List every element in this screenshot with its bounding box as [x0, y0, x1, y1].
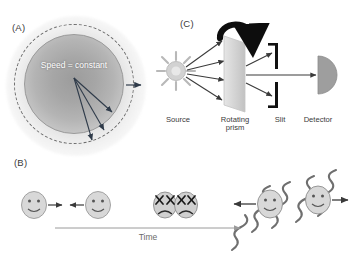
radial-speed-arrows — [74, 78, 112, 140]
time-axis-label: Time — [88, 232, 208, 242]
face-separate-right — [306, 186, 331, 214]
face-separate-left — [258, 190, 283, 218]
panel-b-diagram — [0, 150, 351, 263]
source-label: Source — [154, 116, 202, 124]
face-approach-right — [86, 192, 111, 219]
rotating-prism-label: Rotating prism — [210, 116, 260, 132]
detector-icon — [318, 56, 337, 94]
panel-a: (A) Speed = constant — [0, 8, 175, 158]
slit-label: Slit — [266, 116, 294, 124]
source-icon — [157, 52, 195, 90]
collision-faces — [154, 192, 198, 218]
figure-canvas: (A) Speed = constant (C) — [0, 0, 351, 263]
panel-c: (C) — [150, 8, 351, 140]
panel-a-vectors — [0, 8, 175, 158]
face-approach-left — [22, 192, 47, 219]
detector-label: Detector — [292, 116, 344, 124]
panel-b: (B) — [0, 150, 351, 263]
rotating-prism-icon — [224, 36, 245, 112]
